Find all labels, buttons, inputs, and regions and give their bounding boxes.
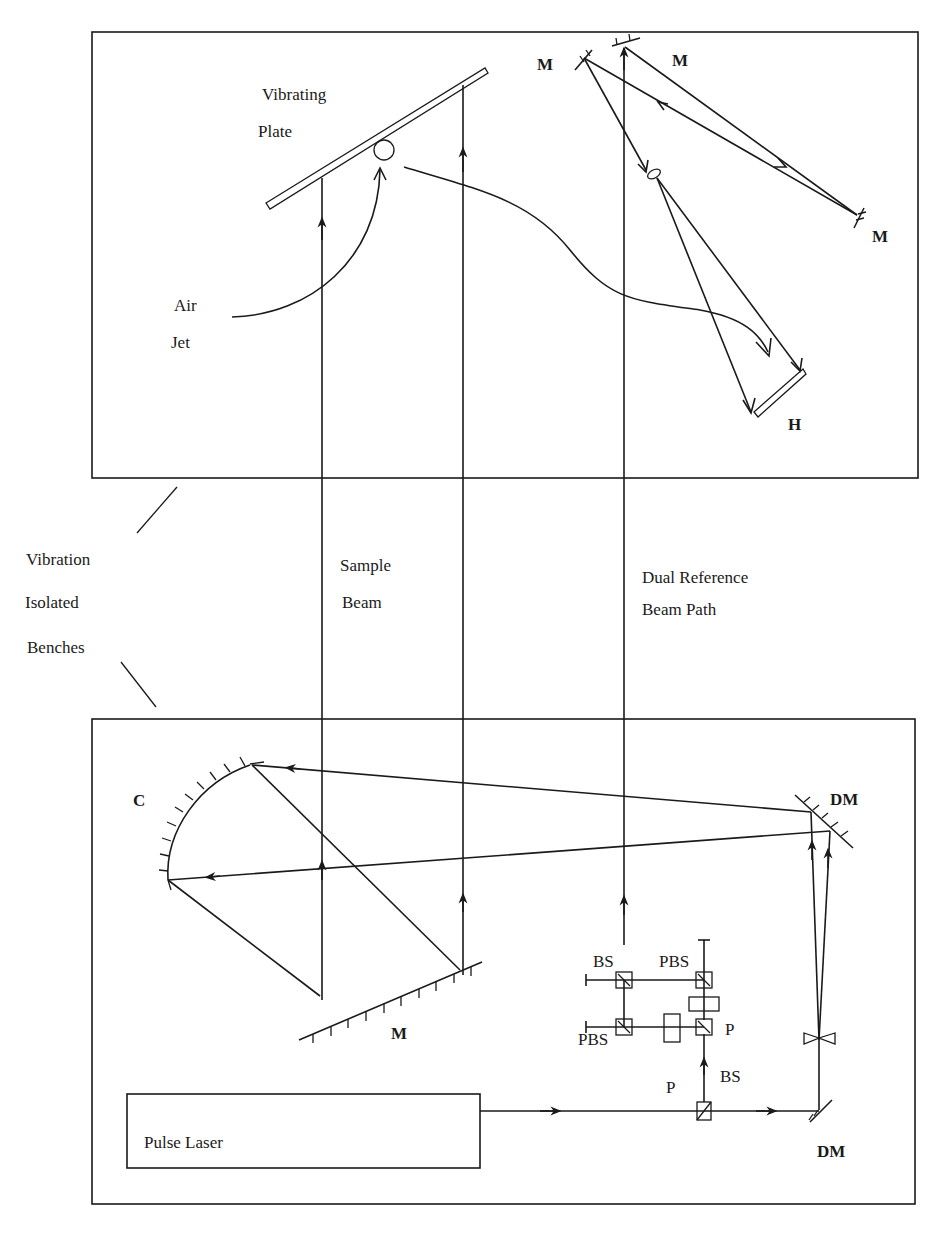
label-jet: Jet — [171, 333, 190, 352]
lens-icon — [646, 167, 662, 181]
air-jet-arrow — [232, 170, 380, 317]
object-wave-arrowhead-icon — [756, 338, 771, 356]
label-mirror-m1: M — [537, 55, 553, 74]
label-dual-reference: Dual Reference — [642, 568, 748, 587]
label-sample: Sample — [340, 556, 391, 575]
beam-c-to-m-left — [168, 880, 320, 996]
label-hologram: H — [788, 415, 801, 434]
top-bench-frame — [92, 32, 918, 478]
beam-c-bottom-arrow-icon — [210, 876, 220, 877]
beam-c-top-arrow-icon — [290, 768, 300, 769]
label-mirror-m3: M — [872, 227, 888, 246]
label-vibrating: Vibrating — [262, 85, 327, 104]
bench-pointer-lower — [121, 662, 156, 707]
label-dm-top: DM — [830, 790, 858, 809]
hologram-plate — [754, 369, 806, 417]
beam-dm-to-c-top — [252, 765, 811, 812]
object-wave-path — [404, 167, 768, 352]
label-mirror-m2: M — [672, 51, 688, 70]
label-beam: Beam — [342, 593, 382, 612]
label-isolated: Isolated — [25, 593, 79, 612]
concave-mirror-c-icon — [159, 757, 264, 890]
mirror-m3-icon — [854, 208, 866, 228]
beam-dm-to-c-bottom — [168, 831, 830, 880]
mirror-m2-icon — [612, 34, 640, 46]
reference-beam-to-hologram-a — [657, 178, 751, 412]
label-plate: Plate — [258, 122, 292, 141]
label-polarizer-bottom: P — [666, 1078, 675, 1097]
polarizer-bottom-element — [664, 1014, 680, 1042]
beam-c-to-m-right — [252, 765, 460, 970]
reference-beam-to-hologram-b — [657, 178, 800, 370]
label-pbs-top: PBS — [659, 952, 689, 971]
label-polarizer-right: P — [725, 1020, 734, 1039]
label-bs-top: BS — [593, 952, 614, 971]
holography-setup-diagram: Vibrating Plate Air Jet M M M H Vibratio… — [0, 0, 952, 1235]
beam-m3-to-m1 — [584, 58, 857, 215]
label-dm-bottom: DM — [817, 1142, 845, 1161]
label-mirror-m: M — [391, 1024, 407, 1043]
label-bs-bottom: BS — [720, 1067, 741, 1086]
label-air: Air — [174, 296, 197, 315]
pulse-laser: Pulse Laser — [127, 1094, 480, 1168]
label-vibration: Vibration — [26, 550, 91, 569]
beam-m1-to-lens — [584, 58, 646, 170]
label-concave-mirror: C — [133, 791, 145, 810]
label-beam-path: Beam Path — [642, 600, 717, 619]
bench-pointer-upper — [137, 487, 177, 533]
air-jet-nozzle — [374, 140, 394, 160]
label-pbs-bottom: PBS — [578, 1030, 608, 1049]
label-benches: Benches — [27, 638, 85, 657]
label-pulse-laser: Pulse Laser — [144, 1133, 223, 1152]
bottom-bench-frame — [92, 719, 915, 1204]
beam-m2-to-m3 — [625, 47, 857, 215]
